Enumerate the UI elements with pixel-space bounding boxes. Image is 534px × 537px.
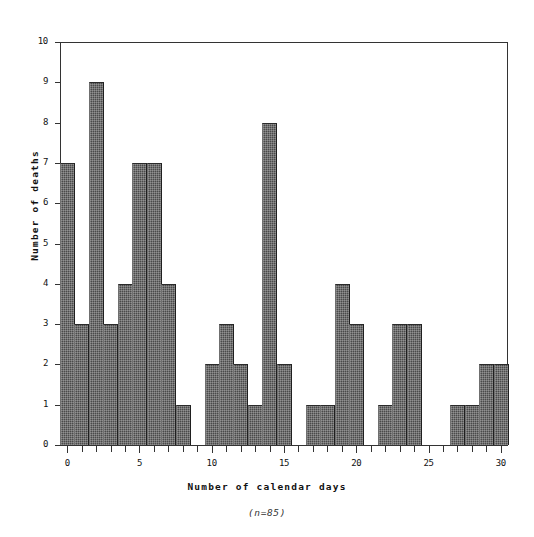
bar (233, 364, 248, 445)
bar (335, 284, 350, 445)
x-tick-minor (96, 446, 97, 452)
x-tick-minor (111, 446, 112, 452)
x-tick-minor (298, 446, 299, 452)
x-tick-label: 20 (341, 458, 371, 468)
x-tick-minor (226, 446, 227, 452)
x-tick-minor (457, 446, 458, 452)
bar (320, 405, 335, 445)
y-tick-label: 2 (22, 358, 48, 368)
x-tick-minor (82, 446, 83, 452)
x-tick-minor (125, 446, 126, 452)
x-tick-label: 5 (124, 458, 154, 468)
x-tick-minor (400, 446, 401, 452)
x-tick-minor (154, 446, 155, 452)
bar (306, 405, 321, 445)
x-tick-major (139, 446, 140, 453)
bar (450, 405, 465, 445)
x-tick-minor (241, 446, 242, 452)
x-tick-minor (414, 446, 415, 452)
x-tick-label: 10 (197, 458, 227, 468)
x-tick-minor (197, 446, 198, 452)
bar (132, 163, 147, 445)
y-tick-label: 0 (22, 439, 48, 449)
x-tick-major (501, 446, 502, 453)
bar (392, 324, 407, 445)
bar (248, 405, 263, 445)
bar (118, 284, 133, 445)
figure-caption: (n=85) (0, 507, 534, 518)
bar (176, 405, 191, 445)
bar (407, 324, 422, 445)
x-tick-minor (270, 446, 271, 452)
bar (494, 364, 509, 445)
x-axis-title: Number of calendar days (0, 481, 534, 492)
x-tick-minor (385, 446, 386, 452)
x-tick-minor (327, 446, 328, 452)
bar (349, 324, 364, 445)
x-tick-label: 15 (269, 458, 299, 468)
y-tick-label: 10 (22, 36, 48, 46)
bar-series (60, 42, 508, 445)
x-tick-minor (313, 446, 314, 452)
x-tick-minor (486, 446, 487, 452)
bar (465, 405, 480, 445)
x-tick-minor (183, 446, 184, 452)
bar (277, 364, 292, 445)
y-axis-title: Number of deaths (29, 106, 40, 306)
x-tick-major (284, 446, 285, 453)
bar (89, 82, 104, 445)
bar (103, 324, 118, 445)
bar (378, 405, 393, 445)
bar (262, 123, 277, 445)
x-tick-major (67, 446, 68, 453)
bar (219, 324, 234, 445)
bar (74, 324, 89, 445)
y-tick (55, 445, 61, 446)
x-tick-minor (443, 446, 444, 452)
y-tick-label: 3 (22, 318, 48, 328)
bar (60, 163, 75, 445)
x-tick-minor (168, 446, 169, 452)
x-tick-major (212, 446, 213, 453)
bar (147, 163, 162, 445)
x-tick-major (429, 446, 430, 453)
bar (161, 284, 176, 445)
bar (479, 364, 494, 445)
bar (205, 364, 220, 445)
chart-figure: 012345678910 Number of deaths 0510152025… (0, 0, 534, 537)
x-tick-label: 30 (486, 458, 516, 468)
y-tick-label: 9 (22, 76, 48, 86)
x-tick-minor (255, 446, 256, 452)
x-tick-label: 25 (414, 458, 444, 468)
x-tick-major (356, 446, 357, 453)
x-tick-minor (371, 446, 372, 452)
x-tick-label: 0 (52, 458, 82, 468)
y-tick-label: 1 (22, 399, 48, 409)
x-tick-minor (472, 446, 473, 452)
x-tick-minor (342, 446, 343, 452)
